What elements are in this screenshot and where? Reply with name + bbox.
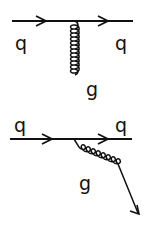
gluon-propagator: [71, 21, 80, 75]
feynman-diagram: q q g q q g: [0, 0, 147, 225]
bottom-quark-line: [10, 134, 132, 144]
label-top-in: q: [15, 32, 27, 54]
label-bottom-in: q: [14, 114, 26, 136]
label-propagator: g: [86, 78, 98, 100]
diagram-canvas: q q g q q g: [0, 0, 147, 225]
label-emitted: g: [79, 172, 91, 194]
label-top-out: q: [115, 32, 127, 54]
label-bottom-out: q: [115, 114, 127, 136]
